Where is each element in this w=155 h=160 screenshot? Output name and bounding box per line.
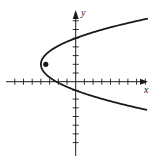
y-axis-arrow-icon [73,10,79,19]
y-axis-label: y [80,7,86,18]
x-axis-label: x [143,84,149,95]
focus-point [43,62,48,67]
coordinate-plane: x y [0,0,155,160]
parabola-curve [41,19,148,110]
parabola-figure: x y [0,0,155,160]
